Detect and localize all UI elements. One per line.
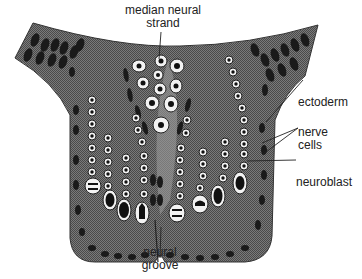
label-neural-groove-line2: groove bbox=[130, 259, 190, 272]
label-median-neural-strand: median neural strand bbox=[121, 4, 205, 30]
label-neuroblast: neuroblast bbox=[296, 176, 352, 189]
label-median-neural-strand-line2: strand bbox=[121, 17, 205, 30]
label-ectoderm: ectoderm bbox=[298, 96, 348, 109]
label-nerve-cells-line2: cells bbox=[298, 139, 328, 152]
label-neural-groove: neural groove bbox=[130, 246, 190, 272]
label-nerve-cells: nerve cells bbox=[298, 126, 328, 152]
